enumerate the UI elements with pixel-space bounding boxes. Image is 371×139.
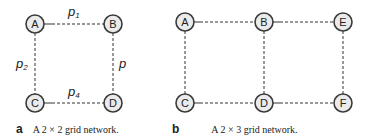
edge-label-p4: p4 [67, 84, 80, 100]
node-b-F: F [334, 94, 352, 112]
node-a-D: D [104, 94, 122, 112]
grid-network-figure: p1 p2 p p4 A B C D A B E C D F [0, 0, 371, 139]
caption-b: bA 2 × 3 grid network. [172, 122, 298, 136]
panel-b-edges [185, 22, 343, 103]
node-a-B: B [104, 15, 122, 33]
node-b-D: D [255, 94, 273, 112]
edge-label-p2: p2 [15, 56, 28, 72]
caption-text-a: A 2 × 2 grid network. [33, 124, 119, 135]
svg-text:C: C [31, 97, 39, 109]
node-b-A: A [176, 13, 194, 31]
svg-text:A: A [31, 18, 39, 30]
svg-text:B: B [260, 16, 267, 28]
svg-text:F: F [340, 97, 347, 109]
node-b-E: E [334, 13, 352, 31]
node-a-A: A [26, 15, 44, 33]
caption-a: aA 2 × 2 grid network. [16, 122, 119, 136]
node-b-C: C [176, 94, 194, 112]
edge-label-p3: p [118, 56, 126, 71]
panel-letter-a: a [16, 122, 23, 136]
edge-label-p1: p1 [67, 4, 80, 20]
svg-text:B: B [109, 18, 116, 30]
panel-letter-b: b [172, 122, 179, 136]
node-b-B: B [255, 13, 273, 31]
node-a-C: C [26, 94, 44, 112]
svg-text:D: D [260, 97, 268, 109]
svg-text:C: C [181, 97, 189, 109]
caption-text-b: A 2 × 3 grid network. [211, 124, 297, 135]
svg-text:D: D [109, 97, 117, 109]
svg-text:A: A [181, 16, 189, 28]
svg-text:E: E [339, 16, 346, 28]
